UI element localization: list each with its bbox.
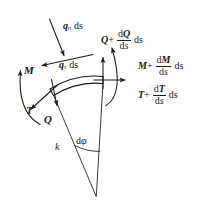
label-T-plus-dTds-ds: T+dTdsds — [138, 85, 178, 106]
right-face-internal-forces — [94, 48, 125, 106]
label-qtau-subscript: τ — [64, 63, 66, 70]
moment-M-arc — [20, 71, 40, 125]
fraction-dQ-ds: dQds — [117, 29, 131, 50]
label-Mr-ds: ds — [174, 60, 183, 71]
beam-element-body — [50, 76, 103, 95]
label-Q-left: Q — [44, 114, 52, 125]
fraction-dM-ds: dMds — [156, 55, 172, 76]
curved-beam-free-body-diagram: qnds qτds M T Q k dφ Q+dQdsds M+dMdsds T… — [0, 0, 200, 209]
label-Mr-num-sym: M — [162, 54, 171, 65]
outer-arc — [50, 76, 103, 89]
label-qtau-ds: qτds — [59, 60, 78, 71]
label-qn-ds: ds — [74, 20, 83, 31]
label-Qr-den-s: s — [125, 40, 129, 51]
label-Mr-symbol: M — [138, 60, 147, 71]
label-dphi: dφ — [76, 136, 87, 146]
radius-line-right — [96, 84, 103, 197]
label-Qr-num-sym: Q — [123, 28, 130, 39]
label-k: k — [55, 142, 59, 152]
inner-arc — [54, 83, 104, 95]
label-M-left: M — [24, 65, 34, 76]
label-qn-subscript: n — [68, 24, 71, 31]
label-dphi-phi: φ — [81, 135, 87, 146]
label-Qr-plus: + — [108, 34, 114, 45]
label-T-left: T — [26, 105, 33, 116]
label-Qr-ds: ds — [134, 34, 143, 45]
left-face-internal-forces — [20, 71, 58, 125]
qn-load-arrow — [50, 19, 65, 56]
label-Tr-ds: ds — [169, 89, 178, 100]
fraction-dT-ds: dTds — [153, 84, 166, 105]
label-qtau-ds: ds — [69, 59, 78, 70]
moment-Qplus-arc — [106, 48, 117, 106]
dphi-angle-arc — [75, 146, 100, 152]
label-Tr-den-s: s — [160, 95, 164, 106]
label-Tr-plus: + — [144, 89, 150, 100]
label-Mr-den-s: s — [164, 66, 168, 77]
label-M-plus-dMds-ds: M+dMdsds — [138, 56, 183, 77]
label-Q-plus-dQds-ds: Q+dQdsds — [101, 30, 143, 51]
label-Tr-num-sym: T — [159, 83, 165, 94]
label-qn-ds: qnds — [63, 21, 83, 32]
label-Mr-plus: + — [147, 60, 153, 71]
